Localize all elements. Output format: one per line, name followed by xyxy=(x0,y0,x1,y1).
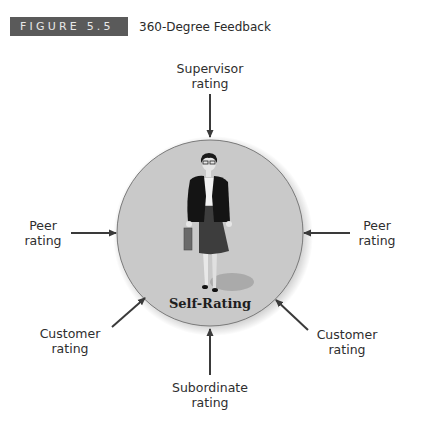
label-peer-right: Peer rating xyxy=(352,218,402,248)
label-line: rating xyxy=(306,342,388,357)
label-line: rating xyxy=(170,76,250,91)
label-line: Peer xyxy=(352,218,402,233)
label-line: rating xyxy=(30,341,110,356)
label-customer-right: Customer rating xyxy=(306,327,388,357)
label-peer-left: Peer rating xyxy=(20,218,66,248)
label-line: Customer xyxy=(306,327,388,342)
self-rating-label: Self-Rating xyxy=(160,296,260,311)
arrow-customer-left xyxy=(112,298,145,327)
label-line: rating xyxy=(352,233,402,248)
label-line: rating xyxy=(165,395,255,410)
label-subordinate: Subordinate rating xyxy=(165,380,255,410)
label-supervisor: Supervisor rating xyxy=(170,61,250,91)
label-line: Peer xyxy=(20,218,66,233)
label-line: Customer xyxy=(30,326,110,341)
label-line: Subordinate xyxy=(165,380,255,395)
arrow-customer-right xyxy=(276,300,308,330)
label-line: Supervisor xyxy=(170,61,250,76)
label-line: rating xyxy=(20,233,66,248)
label-customer-left: Customer rating xyxy=(30,326,110,356)
